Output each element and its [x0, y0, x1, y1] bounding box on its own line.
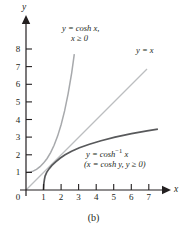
cosh-annotation-line2: x ≥ 0: [62, 34, 99, 44]
arccosh-annotation-line1-pre: y = cosh: [86, 149, 115, 159]
y-tick-label-4: 4: [12, 115, 24, 125]
identity-line: [26, 69, 147, 190]
arccosh-annotation-line2: (x = cosh y, y ≥ 0): [84, 160, 146, 170]
origin-label: 0: [12, 192, 24, 202]
x-axis-arrowhead: [162, 186, 171, 194]
x-tick-label-1: 1: [38, 192, 50, 202]
x-tick-label-3: 3: [73, 192, 85, 202]
y-tick-marks: [26, 49, 32, 172]
cosh-curve-annotation: y = cosh x, x ≥ 0: [62, 24, 99, 44]
y-tick-label-8: 8: [12, 44, 24, 54]
y-tick-label-1: 1: [12, 167, 24, 177]
x-tick-label-7: 7: [143, 192, 155, 202]
x-tick-label-5: 5: [108, 192, 120, 202]
y-tick-label-6: 6: [12, 79, 24, 89]
x-tick-marks: [44, 184, 149, 190]
arccosh-annotation-exponent: −1: [115, 147, 122, 154]
y-axis-arrowhead: [22, 15, 30, 24]
identity-line-annotation: y = x: [136, 46, 154, 56]
x-axis-label: x: [174, 184, 178, 194]
y-tick-label-3: 3: [12, 132, 24, 142]
arccosh-annotation-line1-post: x: [124, 149, 128, 159]
x-tick-label-6: 6: [125, 192, 137, 202]
y-tick-label-5: 5: [12, 97, 24, 107]
y-tick-label-2: 2: [12, 150, 24, 160]
figure-container: y x 0 1 2 3 4 5 6 7 1 2 3 4 5 6 7 8 y = …: [0, 0, 187, 231]
y-axis-label: y: [22, 2, 26, 12]
arccosh-annotation-line1: y = cosh−1 x: [86, 147, 146, 160]
figure-caption: (b): [0, 212, 187, 223]
x-tick-label-2: 2: [55, 192, 67, 202]
arccosh-curve-annotation: y = cosh−1 x (x = cosh y, y ≥ 0): [86, 147, 146, 169]
x-tick-label-4: 4: [90, 192, 102, 202]
y-tick-label-7: 7: [12, 62, 24, 72]
